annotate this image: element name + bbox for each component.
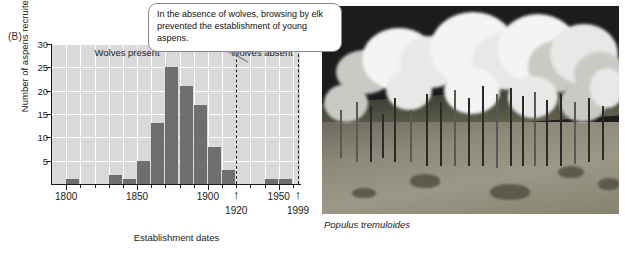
x-axis-tick-label: 1900 — [197, 191, 219, 202]
aspen-trunk — [482, 86, 484, 166]
x-axis-major-tick — [137, 185, 138, 190]
gridline-vertical — [279, 44, 280, 184]
x-axis-minor-tick — [265, 185, 266, 188]
shrub — [558, 166, 584, 178]
aspen-trunk — [454, 90, 456, 166]
gridline-vertical — [265, 44, 266, 184]
gridline-vertical — [109, 44, 110, 184]
aspen-trunk — [340, 110, 342, 158]
aspen-grove-photograph — [322, 6, 619, 214]
y-axis-tick-label: 30 — [26, 39, 48, 50]
x-axis-tick-label: 1850 — [126, 191, 148, 202]
aspen-canopy — [590, 68, 619, 108]
x-axis-title: Establishment dates — [52, 232, 301, 243]
plot-area: Wolves presentWolves absent — [52, 44, 300, 184]
gridline-vertical — [123, 44, 124, 184]
gridline-vertical — [293, 44, 294, 184]
wolves-reintroduced-line-label: 1999 — [287, 205, 309, 216]
aspen-trunk — [560, 94, 562, 166]
y-axis-tick-label: 15 — [26, 109, 48, 120]
x-axis-major-tick — [66, 185, 67, 190]
x-axis-minor-tick — [109, 185, 110, 188]
aspen-canopy — [324, 84, 368, 122]
photo-caption: Populus tremuloides — [324, 219, 410, 230]
x-axis-minor-tick — [194, 185, 195, 188]
aspen-trunk — [496, 94, 498, 168]
aspen-trunk — [440, 102, 442, 166]
y-axis-tick-label: 20 — [26, 85, 48, 96]
wolves-extirpated-line — [236, 44, 237, 184]
y-axis-tick-mark — [46, 137, 52, 138]
x-axis-tick-label: 1950 — [268, 191, 290, 202]
aspen-canopy — [444, 68, 500, 114]
shrub — [598, 178, 619, 190]
histogram-bar — [151, 123, 164, 184]
wolves-extirpated-line-arrow: ↑ — [230, 190, 242, 199]
shrub — [490, 184, 530, 200]
x-axis-tick-label: 1800 — [55, 191, 77, 202]
shrub — [410, 174, 440, 188]
aspen-canopy — [508, 76, 558, 118]
y-axis-tick-mark — [46, 44, 52, 45]
aspen-trunk — [510, 88, 512, 166]
x-axis-minor-tick — [293, 185, 294, 188]
shrub — [352, 188, 376, 198]
photo-figure — [322, 6, 619, 214]
x-axis-major-tick — [208, 185, 209, 190]
wolves-reintroduced-line — [298, 44, 299, 184]
gridline-vertical — [80, 44, 81, 184]
aspen-trunk — [468, 98, 470, 166]
gridline-vertical — [222, 44, 223, 184]
aspen-trunk — [426, 94, 428, 166]
aspen-trunk — [370, 106, 372, 162]
histogram-bar — [137, 161, 150, 184]
aspen-trunk — [602, 106, 604, 160]
x-axis-minor-tick — [250, 185, 251, 188]
histogram-bar — [165, 67, 178, 184]
aspen-trunk — [356, 102, 358, 162]
x-axis-minor-tick — [151, 185, 152, 188]
x-axis-minor-tick — [95, 185, 96, 188]
histogram-bar — [180, 86, 193, 184]
aspen-trunk — [574, 102, 576, 164]
aspen-trunk — [394, 98, 396, 162]
x-axis-major-tick — [279, 185, 280, 190]
x-axis-minor-tick — [165, 185, 166, 188]
aspen-trunk — [588, 98, 590, 162]
y-axis-tick-mark — [46, 114, 52, 115]
y-axis-tick-label: 10 — [26, 132, 48, 143]
aspen-trunk — [546, 100, 548, 166]
histogram-bar — [208, 147, 221, 184]
callout-box: In the absence of wolves, browsing by el… — [148, 3, 342, 52]
histogram-bar — [109, 175, 122, 184]
aspen-trunk — [534, 92, 536, 166]
aspen-trunk — [410, 110, 412, 162]
y-axis-tick-label: 5 — [26, 155, 48, 166]
x-axis-minor-tick — [222, 185, 223, 188]
y-axis-tick-mark — [46, 91, 52, 92]
y-axis-tick-label: 25 — [26, 62, 48, 73]
gridline-vertical — [95, 44, 96, 184]
histogram-bar — [194, 105, 207, 184]
x-axis-minor-tick — [123, 185, 124, 188]
gridline-vertical — [250, 44, 251, 184]
histogram-bar — [222, 170, 235, 184]
x-axis-minor-tick — [180, 185, 181, 188]
x-axis-minor-tick — [80, 185, 81, 188]
aspen-trunk — [522, 96, 524, 166]
wolves-reintroduced-line-arrow: ↑ — [292, 190, 304, 199]
y-axis-tick-labels: 51015202530 — [26, 44, 48, 184]
wolves-extirpated-line-label: 1920 — [225, 205, 247, 216]
aspen-trunk — [382, 114, 384, 158]
y-axis-tick-mark — [46, 67, 52, 68]
gridline-vertical — [66, 44, 67, 184]
y-axis-tick-mark — [46, 161, 52, 162]
